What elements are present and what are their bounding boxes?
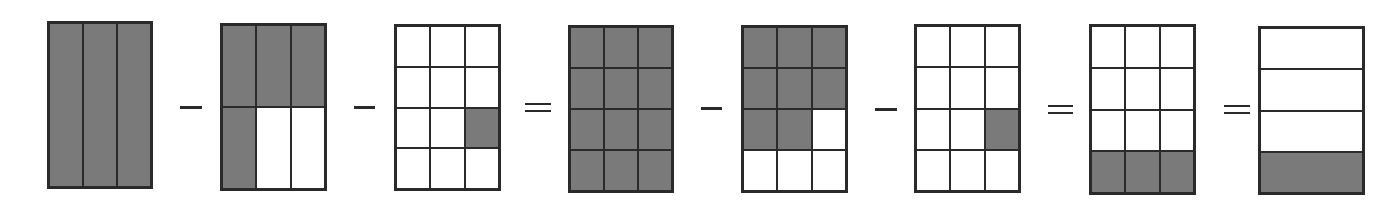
shaded-cell <box>743 68 777 109</box>
empty-cell <box>950 67 984 108</box>
empty-cell <box>256 107 290 189</box>
shaded-cell <box>465 108 499 149</box>
empty-cell <box>985 67 1019 108</box>
area-model-eight-twelfths <box>741 25 848 193</box>
shaded-cell <box>743 109 777 150</box>
empty-cell <box>396 26 430 67</box>
shaded-cell <box>256 25 290 107</box>
shaded-cell <box>222 25 256 107</box>
area-model-three-twelfths <box>1089 24 1196 195</box>
shaded-cell <box>570 109 604 150</box>
shaded-cell <box>777 27 811 68</box>
empty-cell <box>916 67 950 108</box>
empty-cell <box>1160 68 1194 110</box>
empty-cell <box>1125 110 1159 152</box>
empty-cell <box>396 67 430 108</box>
area-model-whole-1 <box>47 21 153 189</box>
empty-cell <box>950 150 984 191</box>
shaded-cell <box>49 23 83 187</box>
empty-cell <box>985 150 1019 191</box>
shaded-cell <box>604 27 638 68</box>
empty-cell <box>812 150 846 191</box>
area-model-four-sixths <box>220 23 327 191</box>
empty-cell <box>916 26 950 67</box>
shaded-cell <box>743 27 777 68</box>
empty-cell <box>1260 69 1363 110</box>
minus-sign <box>354 106 375 109</box>
empty-cell <box>396 108 430 149</box>
empty-cell <box>950 109 984 150</box>
empty-cell <box>1260 28 1363 69</box>
shaded-cell <box>604 109 638 150</box>
empty-cell <box>1160 110 1194 152</box>
shaded-cell <box>604 68 638 109</box>
empty-cell <box>1091 26 1125 68</box>
shaded-cell <box>812 68 846 109</box>
shaded-cell <box>638 68 672 109</box>
area-model-twelve-twelfths <box>568 25 674 193</box>
shaded-cell <box>117 23 151 187</box>
shaded-cell <box>570 68 604 109</box>
area-model-one-twelfth <box>914 24 1021 193</box>
shaded-cell <box>1125 151 1159 193</box>
shaded-cell <box>638 150 672 191</box>
shaded-cell <box>777 68 811 109</box>
shaded-cell <box>1260 152 1363 193</box>
shaded-cell <box>777 109 811 150</box>
equals-sign <box>1048 105 1073 114</box>
shaded-cell <box>83 23 117 187</box>
equals-sign <box>525 103 551 112</box>
empty-cell <box>430 26 464 67</box>
shaded-cell <box>985 109 1019 150</box>
empty-cell <box>430 108 464 149</box>
empty-cell <box>465 148 499 189</box>
equals-sign <box>1224 105 1250 114</box>
empty-cell <box>950 26 984 67</box>
shaded-cell <box>812 27 846 68</box>
empty-cell <box>396 148 430 189</box>
empty-cell <box>1160 26 1194 68</box>
area-model-one-fourth <box>1258 26 1365 195</box>
empty-cell <box>465 26 499 67</box>
empty-cell <box>985 26 1019 67</box>
empty-cell <box>916 109 950 150</box>
empty-cell <box>1260 111 1363 152</box>
minus-sign <box>180 106 202 109</box>
empty-cell <box>465 67 499 108</box>
shaded-cell <box>570 150 604 191</box>
shaded-cell <box>1091 151 1125 193</box>
shaded-cell <box>1160 151 1194 193</box>
area-model-one-twelfth <box>394 24 501 191</box>
shaded-cell <box>291 25 325 107</box>
shaded-cell <box>222 107 256 189</box>
empty-cell <box>291 107 325 189</box>
shaded-cell <box>604 150 638 191</box>
empty-cell <box>430 67 464 108</box>
empty-cell <box>1091 110 1125 152</box>
minus-sign <box>701 107 722 110</box>
empty-cell <box>812 109 846 150</box>
empty-cell <box>1091 68 1125 110</box>
empty-cell <box>430 148 464 189</box>
empty-cell <box>743 150 777 191</box>
shaded-cell <box>638 27 672 68</box>
empty-cell <box>916 150 950 191</box>
minus-sign <box>875 108 897 111</box>
shaded-cell <box>570 27 604 68</box>
empty-cell <box>1125 26 1159 68</box>
shaded-cell <box>638 109 672 150</box>
empty-cell <box>777 150 811 191</box>
empty-cell <box>1125 68 1159 110</box>
